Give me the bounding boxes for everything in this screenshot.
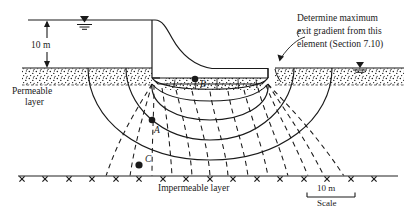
impermeable-boundary [18,176,398,182]
scale-value-label: 10 m [317,183,335,194]
scale-caption-label: Scale [317,198,337,209]
permeable-layer-label-line1: Permeable [12,86,52,97]
exit-gradient-note-line2: exit gradient from this [297,26,382,37]
point-marker-A [149,117,156,124]
exit-gradient-note-line1: Determine maximum [297,13,378,24]
equipotential-lines [106,84,344,176]
exit-gradient-note-line3: element (Section 7.10) [297,39,383,50]
point-marker-B [192,76,199,83]
point-label-C: C [145,154,151,165]
point-label-B: B [200,79,206,90]
water-table-icon-upstream [77,16,92,29]
impermeable-layer-label: Impermeable layer [158,183,229,194]
permeable-layer-label-line2: layer [25,97,44,108]
dam-structure [152,20,268,78]
head-dimension-label: 10 m [31,40,50,51]
point-marker-C [135,161,142,168]
point-label-A: A [154,125,160,136]
dam-base-slab [152,78,270,92]
seepage-flownet-figure: 10 m Permeable layer Determine maximum e… [0,0,412,221]
